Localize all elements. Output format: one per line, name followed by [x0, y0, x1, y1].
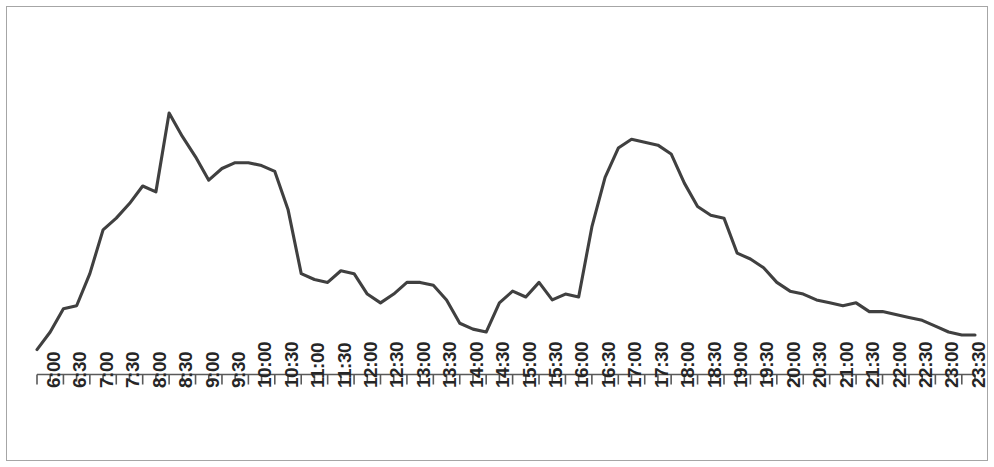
chart-figure: 6:006:307:007:308:008:309:009:3010:0010:… — [0, 0, 994, 467]
plot-area: 6:006:307:007:308:008:309:009:3010:0010:… — [0, 0, 994, 467]
line-chart-svg — [0, 0, 994, 467]
series-line-traffic-volume — [37, 113, 975, 350]
x-axis — [37, 375, 975, 385]
data-series-group — [37, 113, 975, 350]
